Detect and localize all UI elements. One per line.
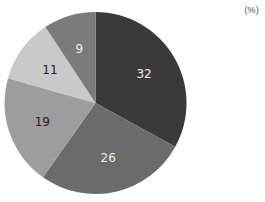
unit-label: (%) (244, 5, 259, 15)
pie-slice-label: 19 (35, 115, 50, 129)
pie-slices (5, 12, 187, 194)
pie-chart-svg: 322619119 (0, 0, 265, 202)
pie-slice-label: 11 (42, 63, 57, 77)
pie-slice-label: 32 (136, 67, 151, 81)
pie-slice-label: 9 (75, 42, 83, 56)
pie-slice-label: 26 (101, 151, 116, 165)
